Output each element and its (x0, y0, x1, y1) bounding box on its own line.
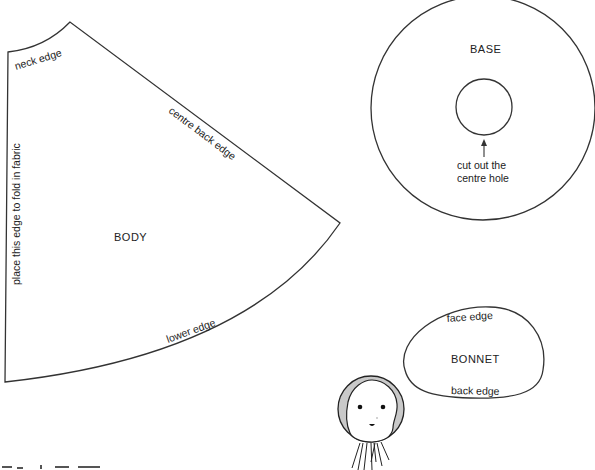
centre-back-edge-label: centre back edge (167, 104, 239, 162)
body-outline (5, 22, 340, 382)
face-edge-label: face edge (446, 309, 493, 324)
lower-edge-label: lower edge (165, 316, 218, 345)
bonnet-title: BONNET (451, 353, 500, 365)
base-piece: BASE cut out the centre hole (371, 0, 595, 220)
base-instruction-line1: cut out the (457, 159, 506, 171)
cropped-caption-fragment (2, 465, 100, 469)
right-eye-icon (381, 405, 386, 410)
bonnet-piece: face edge BONNET back edge (404, 307, 544, 398)
body-piece: neck edge centre back edge place this ed… (5, 22, 340, 382)
pattern-sheet: neck edge centre back edge place this ed… (0, 0, 595, 470)
back-edge-label: back edge (451, 384, 500, 397)
base-instruction-line2: centre hole (457, 172, 509, 184)
left-eye-icon (358, 405, 363, 410)
doll-head-illustration (338, 376, 404, 470)
base-centre-hole (456, 79, 512, 135)
hair-strands (352, 442, 389, 470)
arrow-up-icon (481, 139, 487, 157)
nose-dot (376, 417, 378, 419)
body-title: BODY (114, 231, 147, 243)
base-outer-circle (371, 0, 595, 220)
fold-edge-label: place this edge to fold in fabric (10, 143, 22, 285)
base-title: BASE (470, 43, 501, 55)
doll-face (346, 380, 397, 442)
